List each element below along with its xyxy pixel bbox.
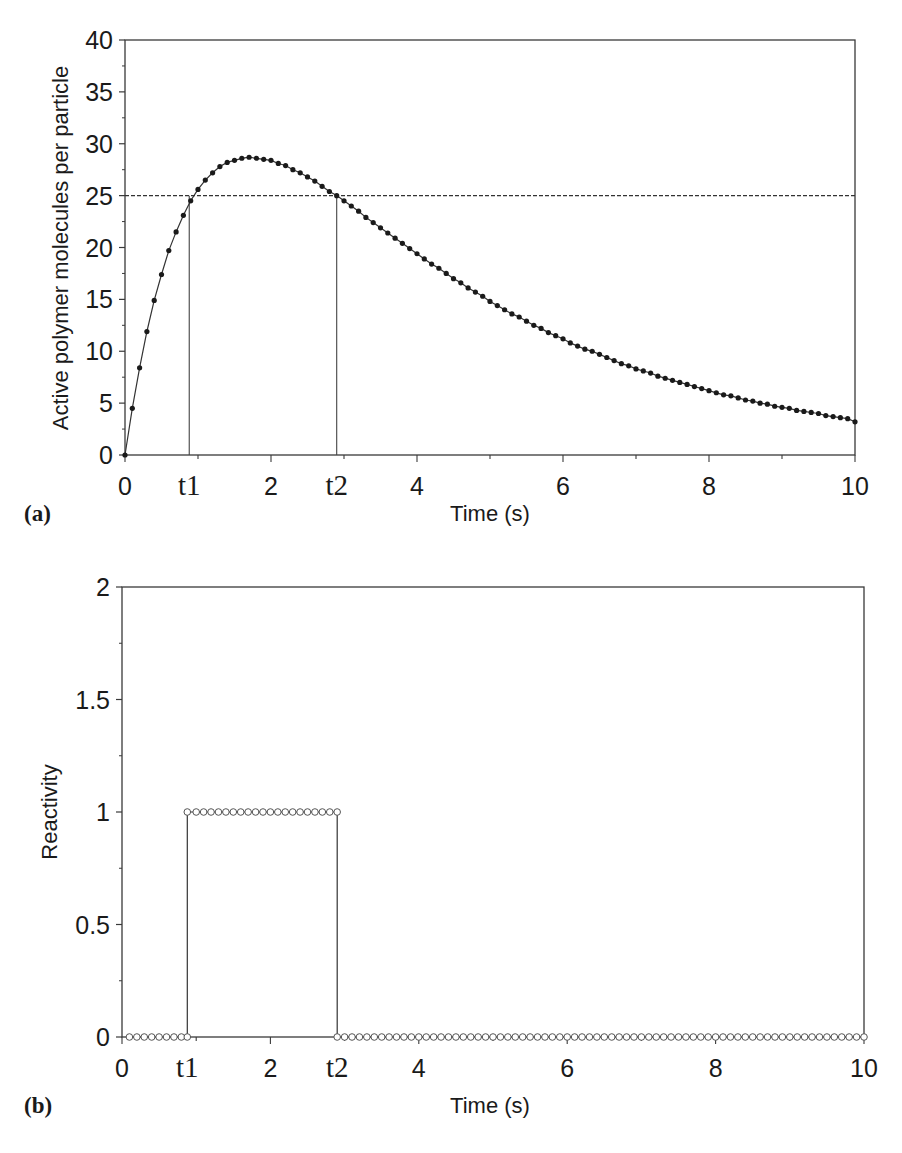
y-tick-label: 20 bbox=[85, 234, 113, 262]
y-tick-label: 0.5 bbox=[75, 911, 110, 939]
data-point bbox=[685, 382, 690, 387]
plot-area-border bbox=[125, 40, 855, 455]
x-axis-title: Time (s) bbox=[450, 501, 530, 526]
data-point bbox=[712, 1034, 719, 1041]
data-point bbox=[245, 809, 252, 816]
data-point bbox=[779, 405, 784, 410]
data-point bbox=[341, 198, 346, 203]
x-tick-label: 4 bbox=[410, 472, 424, 500]
data-point bbox=[334, 193, 339, 198]
data-point bbox=[809, 1034, 816, 1041]
data-point bbox=[623, 1034, 630, 1041]
data-point bbox=[487, 299, 492, 304]
data-point bbox=[590, 349, 595, 354]
x-tick-label: 6 bbox=[560, 1054, 574, 1082]
data-point bbox=[794, 1034, 801, 1041]
data-point bbox=[823, 413, 828, 418]
data-point bbox=[758, 401, 763, 406]
data-point bbox=[482, 1034, 489, 1041]
data-point bbox=[371, 1034, 378, 1041]
figure: 05101520253035400t12t246810 Active polym… bbox=[0, 0, 902, 1153]
data-point bbox=[467, 1034, 474, 1041]
data-point bbox=[268, 158, 273, 163]
data-point bbox=[727, 1034, 734, 1041]
data-point bbox=[152, 298, 157, 303]
data-point bbox=[495, 303, 500, 308]
data-point bbox=[519, 1034, 526, 1041]
time-marker-label: t1 bbox=[176, 1051, 199, 1083]
data-point bbox=[546, 330, 551, 335]
data-point bbox=[675, 1034, 682, 1041]
data-point bbox=[349, 203, 354, 208]
data-point bbox=[531, 323, 536, 328]
x-tick-label: 2 bbox=[263, 1054, 277, 1082]
data-point bbox=[772, 404, 777, 409]
data-point bbox=[239, 156, 244, 161]
data-point bbox=[655, 374, 660, 379]
plot-frame bbox=[125, 40, 855, 455]
data-point bbox=[831, 414, 836, 419]
data-point bbox=[699, 386, 704, 391]
data-point bbox=[742, 1034, 749, 1041]
y-tick-label: 1.5 bbox=[75, 686, 110, 714]
data-point bbox=[436, 266, 441, 271]
data-point bbox=[223, 809, 230, 816]
series-line bbox=[125, 157, 855, 455]
data-point bbox=[378, 1034, 385, 1041]
data-point bbox=[260, 809, 267, 816]
data-point bbox=[320, 184, 325, 189]
data-point bbox=[326, 809, 333, 816]
data-point bbox=[451, 276, 456, 281]
data-point bbox=[393, 1034, 400, 1041]
data-point bbox=[683, 1034, 690, 1041]
data-point bbox=[638, 1034, 645, 1041]
data-point bbox=[195, 187, 200, 192]
x-axis-title: Time (s) bbox=[450, 1093, 530, 1118]
data-point bbox=[497, 1034, 504, 1041]
data-point bbox=[608, 1034, 615, 1041]
y-tick-label: 5 bbox=[99, 389, 113, 417]
data-point bbox=[660, 1034, 667, 1041]
data-point bbox=[728, 393, 733, 398]
x-tick-label: 10 bbox=[850, 1054, 878, 1082]
data-point bbox=[575, 343, 580, 348]
data-point bbox=[305, 174, 310, 179]
data-point bbox=[364, 1034, 371, 1041]
data-point bbox=[141, 1034, 148, 1041]
data-point bbox=[743, 397, 748, 402]
data-point bbox=[122, 452, 127, 457]
time-marker-label: t2 bbox=[325, 469, 348, 501]
data-point bbox=[200, 809, 207, 816]
data-point bbox=[473, 290, 478, 295]
data-point bbox=[663, 376, 668, 381]
data-point bbox=[648, 370, 653, 375]
data-point bbox=[697, 1034, 704, 1041]
data-point bbox=[156, 1034, 163, 1041]
data-point bbox=[549, 1034, 556, 1041]
data-point bbox=[714, 390, 719, 395]
data-point bbox=[626, 363, 631, 368]
data-point bbox=[568, 340, 573, 345]
data-point bbox=[801, 1034, 808, 1041]
data-point bbox=[838, 415, 843, 420]
data-point bbox=[853, 1034, 860, 1041]
data-point bbox=[480, 294, 485, 299]
x-tick-label: 0 bbox=[118, 472, 132, 500]
data-point bbox=[444, 271, 449, 276]
data-point bbox=[144, 329, 149, 334]
data-point bbox=[721, 392, 726, 397]
data-point bbox=[631, 1034, 638, 1041]
data-point bbox=[553, 333, 558, 338]
y-tick-label: 35 bbox=[85, 78, 113, 106]
data-point bbox=[416, 1034, 423, 1041]
data-point bbox=[438, 1034, 445, 1041]
data-point bbox=[512, 1034, 519, 1041]
data-point bbox=[517, 314, 522, 319]
data-point bbox=[460, 1034, 467, 1041]
data-point bbox=[349, 1034, 356, 1041]
data-point bbox=[772, 1034, 779, 1041]
data-point bbox=[735, 1034, 742, 1041]
data-point bbox=[801, 409, 806, 414]
data-point bbox=[393, 236, 398, 241]
data-point bbox=[181, 213, 186, 218]
